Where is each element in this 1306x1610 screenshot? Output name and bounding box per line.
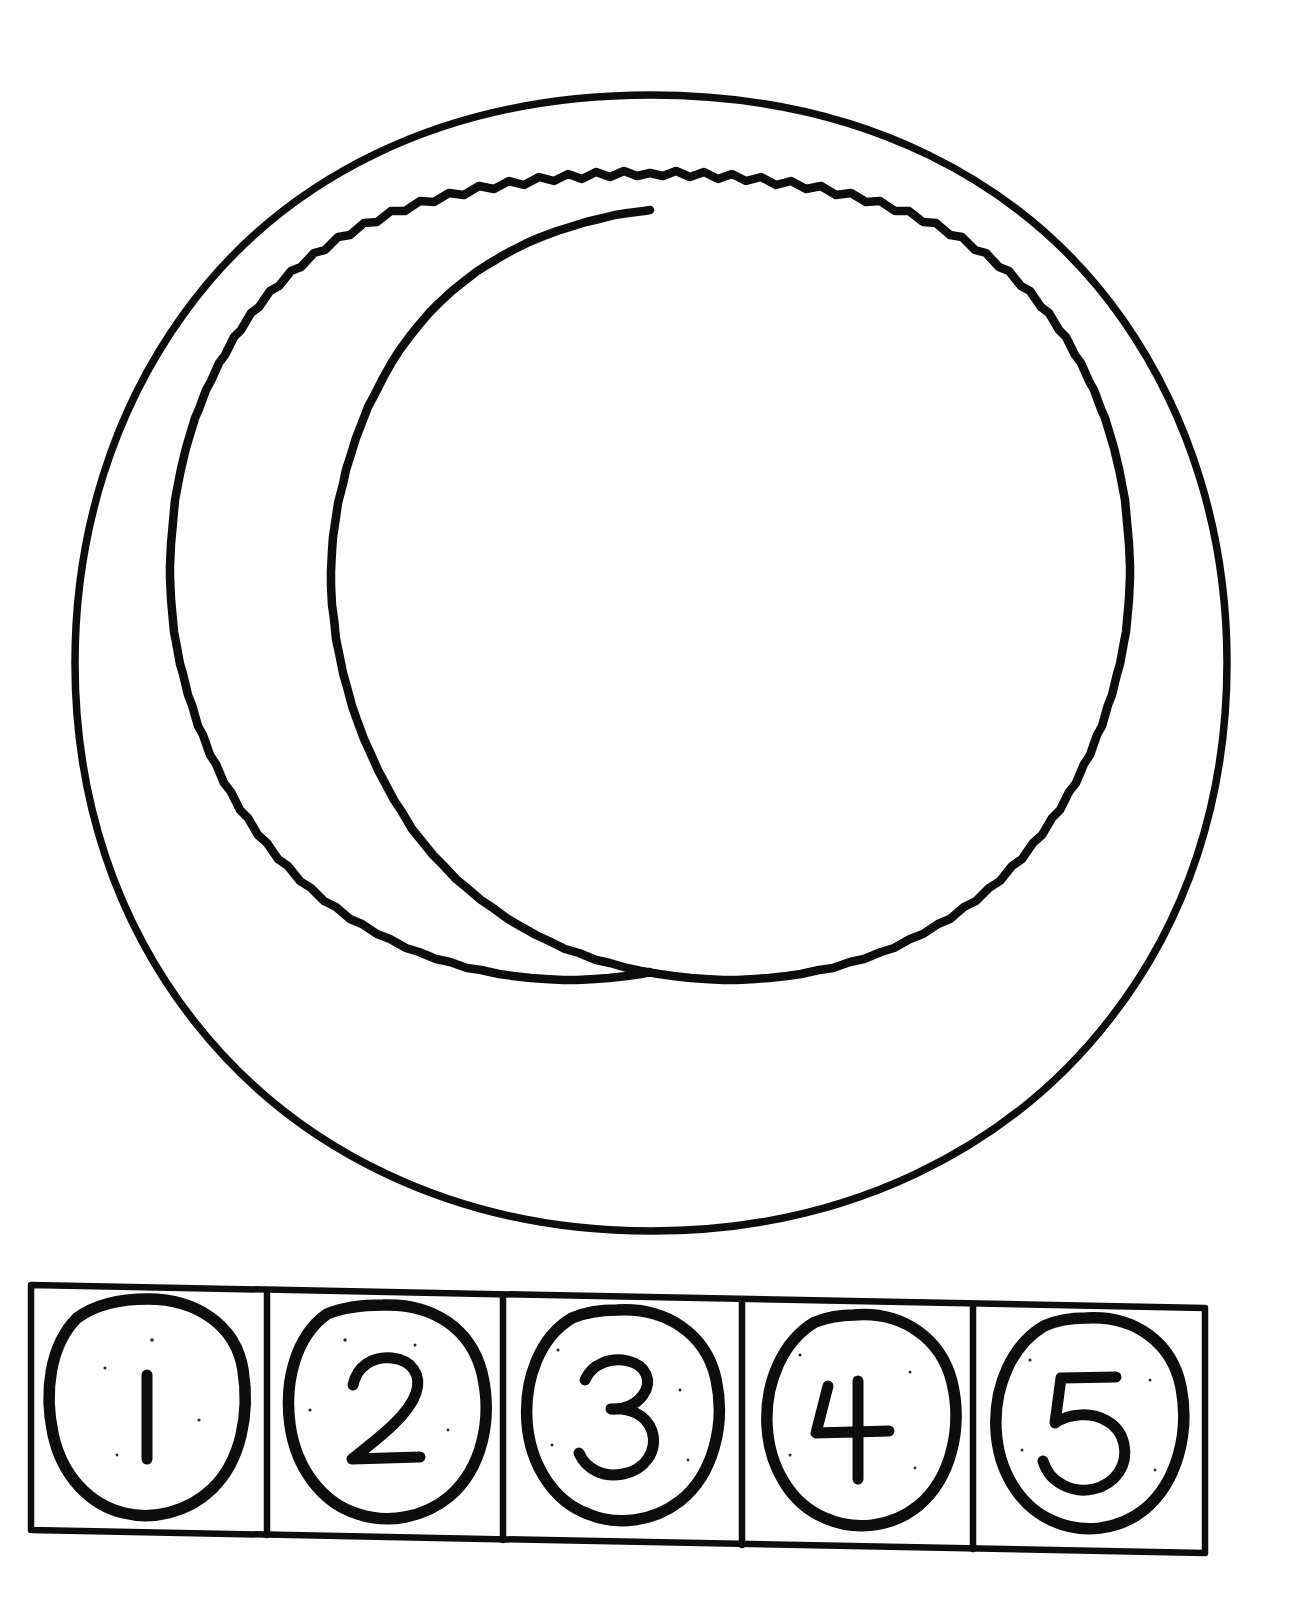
token-digit-5 — [1043, 1377, 1125, 1490]
paper-speck — [798, 1353, 801, 1356]
paper-speck — [116, 1454, 119, 1457]
worksheet-canvas — [0, 0, 1306, 1610]
paper-speck — [556, 1348, 559, 1351]
paper-speck — [679, 1389, 682, 1392]
token-circle-2 — [289, 1305, 487, 1519]
worksheet-page: 1 2 3 4 5 Hand-drawn counting worksheet … — [0, 0, 1306, 1610]
paper-speck — [104, 1367, 107, 1370]
numbered-token-strip[interactable] — [31, 1285, 1205, 1553]
paper-speck — [789, 1454, 792, 1457]
paper-speck — [914, 1467, 917, 1470]
paper-speck — [197, 1418, 200, 1421]
token-cell-1[interactable] — [49, 1299, 245, 1516]
token-cell-3[interactable] — [527, 1310, 720, 1521]
token-cell-5[interactable] — [996, 1318, 1184, 1529]
token-digit-3 — [579, 1360, 653, 1475]
inner-wavy-ring-path — [170, 171, 1130, 980]
large-double-ring-circle — [75, 95, 1227, 1231]
paper-speck — [343, 1338, 346, 1341]
paper-speck — [150, 1338, 154, 1342]
token-digit-4 — [816, 1381, 889, 1479]
paper-speck — [447, 1429, 450, 1432]
paper-speck — [1154, 1469, 1157, 1472]
token-cell-2[interactable] — [289, 1305, 487, 1519]
paper-speck — [1149, 1379, 1152, 1382]
paper-speck — [687, 1459, 690, 1462]
paper-speck — [308, 1408, 311, 1411]
token-digit-2 — [352, 1358, 420, 1459]
paper-speck — [1028, 1358, 1031, 1361]
token-circle-5 — [996, 1318, 1184, 1529]
paper-speck — [1021, 1449, 1024, 1452]
paper-speck — [909, 1371, 912, 1374]
outer-ring-path — [75, 95, 1227, 1231]
paper-speck — [551, 1444, 554, 1447]
token-cell-4[interactable] — [767, 1315, 956, 1526]
token-circle-3 — [527, 1310, 720, 1521]
paper-speck — [414, 1344, 417, 1347]
